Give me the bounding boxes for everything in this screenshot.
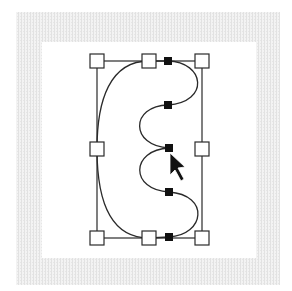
handle-top-left[interactable] bbox=[90, 54, 104, 68]
anchor-point[interactable] bbox=[165, 188, 173, 196]
handle-middle-right[interactable] bbox=[195, 142, 209, 156]
handle-top-right[interactable] bbox=[195, 54, 209, 68]
frame-inner bbox=[42, 42, 256, 258]
handle-middle-left[interactable] bbox=[90, 142, 104, 156]
handle-bottom-middle[interactable] bbox=[142, 231, 156, 245]
handle-bottom-right[interactable] bbox=[195, 231, 209, 245]
anchor-point[interactable] bbox=[164, 101, 172, 109]
selected-path-diagram bbox=[0, 0, 292, 291]
anchor-point[interactable] bbox=[164, 57, 172, 65]
handle-top-middle[interactable] bbox=[142, 54, 156, 68]
anchor-point[interactable] bbox=[165, 233, 173, 241]
anchor-point[interactable] bbox=[165, 144, 173, 152]
handle-bottom-left[interactable] bbox=[90, 231, 104, 245]
